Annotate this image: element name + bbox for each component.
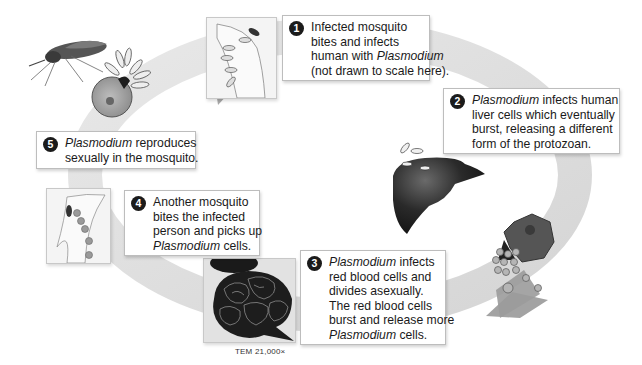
step-3-box: 3 Plasmodium infects red blood cells and… [300,250,446,345]
step-5-box: 5 Plasmodium reproduces sexually in the … [36,131,196,169]
step-3-line-3: divides asexually. [329,284,439,299]
liver-cell-bursting-icon [490,200,610,310]
step-1-line-1: Infected mosquito [311,20,423,35]
step-3-line-1: Plasmodium infects [329,255,439,270]
step-2-line-3: burst, releasing a different [472,122,613,137]
step-5-badge: 5 [43,137,58,152]
step-4-box: 4 Another mosquito bites the infected pe… [124,190,260,256]
step-3-badge: 3 [307,256,322,271]
step-5-line-1: Plasmodium reproduces [65,136,189,151]
micrograph-caption: TEM 21,000× [235,347,285,356]
step-3-line-4: The red blood cells [329,299,439,314]
liver-icon [385,140,495,240]
step-1-line-2: bites and infects [311,35,423,50]
step-4-line-4: Plasmodium cells. [153,239,253,254]
step-2-line-1: Plasmodium infects human [472,93,613,108]
mosquito-gut-cell-icon [90,45,160,120]
micrograph-panel-icon [203,258,296,343]
step-1-box: 1 Infected mosquito bites and infects hu… [282,15,430,81]
arm-bite-panel-icon [206,17,277,99]
step-1-line-4: (not drawn to scale here). [311,64,423,79]
step-1-line-3: human with Plasmodium [311,49,423,64]
step-1-badge: 1 [289,21,304,36]
step-2-line-4: form of the protozoan. [472,137,613,152]
step-3-line-6: Plasmodium cells. [329,328,439,343]
step-2-badge: 2 [450,94,465,109]
step-3-line-2: red blood cells and [329,270,439,285]
step-4-line-2: bites the infected [153,210,253,225]
step-5-line-2: sexually in the mosquito. [65,151,189,166]
step-2-box: 2 Plasmodium infects human liver cells w… [443,88,620,154]
step-4-line-3: person and picks up [153,224,253,239]
arm-blood-cells-panel-icon [46,188,111,264]
step-4-line-1: Another mosquito [153,195,253,210]
step-3-line-5: burst and release more [329,313,439,328]
step-4-badge: 4 [131,196,146,211]
step-2-line-2: liver cells which eventually [472,108,613,123]
